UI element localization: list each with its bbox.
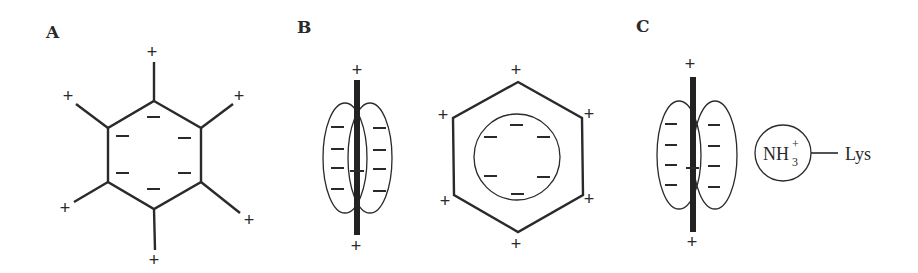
plus-sign: + xyxy=(584,189,595,209)
plus-sign: + xyxy=(147,42,158,62)
hexagon-ring xyxy=(453,82,583,232)
bond-lower-left xyxy=(74,182,108,202)
ring-edge-bar xyxy=(690,77,696,232)
bond-upper-right xyxy=(201,104,233,128)
ring-edge-bar xyxy=(354,80,360,235)
ammonium-charge: + xyxy=(792,137,799,151)
plus-sign: + xyxy=(149,250,160,270)
ammonium-label: NH xyxy=(763,144,789,164)
bond-upper-left xyxy=(76,104,108,128)
plus-sign: + xyxy=(687,232,698,252)
plus-sign: + xyxy=(244,210,255,230)
pi-cloud-right xyxy=(693,101,737,209)
plus-sign: + xyxy=(63,86,74,106)
plus-sign: + xyxy=(511,60,522,80)
pi-electron-circle xyxy=(474,114,560,200)
plus-sign: + xyxy=(351,236,362,256)
ammonium-subscript: 3 xyxy=(792,155,798,169)
panel-b: B + + + + + xyxy=(297,17,594,256)
negative-charges-a xyxy=(116,117,191,189)
cation-pi-diagram: A + + + + + + xyxy=(0,0,918,273)
panel-label-a: A xyxy=(45,22,60,42)
plus-sign: + xyxy=(352,60,363,80)
bond-lower-right xyxy=(201,182,240,213)
plus-sign: + xyxy=(584,104,595,124)
panel-a: A + + + + + + xyxy=(45,22,254,270)
residue-label: Lys xyxy=(845,144,871,164)
bond-bottom xyxy=(154,209,155,250)
side-view-ring: + + xyxy=(323,60,392,256)
plus-sign: + xyxy=(60,198,71,218)
plus-sign: + xyxy=(511,234,522,254)
aromatic-ring-side-view: + + xyxy=(657,54,737,252)
plus-sign: + xyxy=(438,105,449,125)
lysine-ammonium-group: NH + 3 Lys xyxy=(755,125,871,181)
benzene-ring-a xyxy=(74,62,240,250)
positive-charges-a: + + + + + + xyxy=(60,42,255,270)
top-view-ring: + + + + + + xyxy=(438,60,595,254)
pi-cloud-left xyxy=(323,103,367,213)
panel-c: C + + NH + 3 Lys xyxy=(636,16,871,252)
plus-sign: + xyxy=(685,54,696,74)
plus-sign: + xyxy=(440,191,451,211)
panel-label-b: B xyxy=(297,17,311,37)
panel-label-c: C xyxy=(636,16,650,36)
plus-sign: + xyxy=(234,86,245,106)
